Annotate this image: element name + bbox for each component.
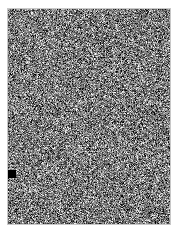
noise-texture-region: [8, 9, 170, 224]
image-canvas-root: [0, 0, 180, 234]
black-square-marker: [8, 170, 16, 178]
